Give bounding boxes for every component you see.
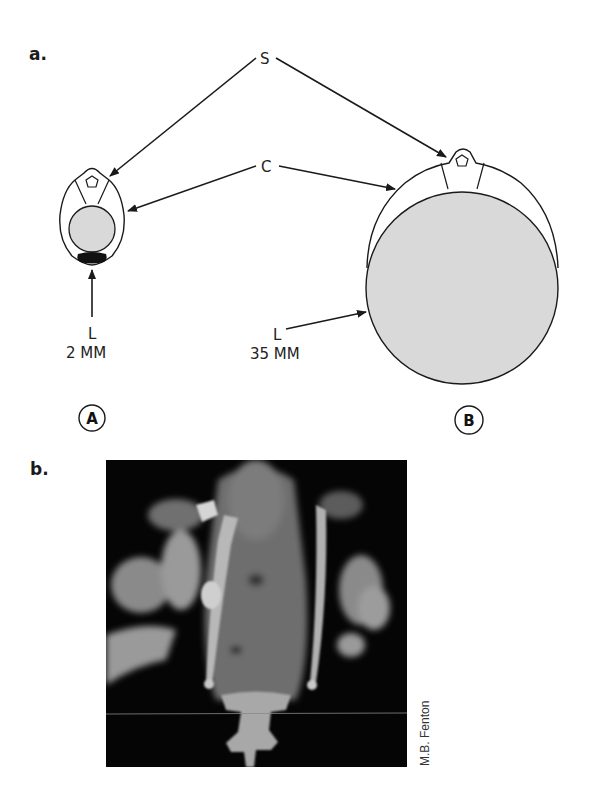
c-arrow-to-a (128, 166, 256, 211)
skeleton-photo-illustration (106, 460, 407, 767)
specimen-b-lumen (366, 192, 558, 384)
s-arrow-to-a (110, 58, 256, 176)
l-arrow-to-b (286, 312, 366, 329)
specimen-b-lumen-label: L (273, 326, 282, 344)
skeleton-photo (106, 460, 407, 767)
callout-c: C (261, 158, 271, 176)
specimen-b-lumen-size: 35 MM (250, 345, 300, 363)
cross-section-diagram: S C L 2 MM L 35 MM A B (0, 0, 596, 460)
svg-text:A: A (86, 410, 98, 428)
c-arrow-to-b (279, 166, 395, 189)
specimen-a-lumen-label: L (88, 325, 97, 343)
specimen-a-cross-section (60, 169, 125, 266)
specimen-a-dark-mass (77, 252, 106, 264)
specimen-b-cross-section (366, 149, 558, 384)
callout-s: S (260, 50, 270, 68)
svg-text:B: B (463, 412, 474, 430)
s-arrow-to-b (276, 58, 446, 157)
specimen-a-lumen-size: 2 MM (66, 344, 106, 362)
specimen-b-badge: B (455, 406, 483, 434)
specimen-a-lumen (69, 206, 115, 252)
specimen-a-badge: A (79, 405, 105, 431)
photo-credit: M.B. Fenton (418, 701, 432, 766)
panel-b-label: b. (30, 459, 49, 479)
